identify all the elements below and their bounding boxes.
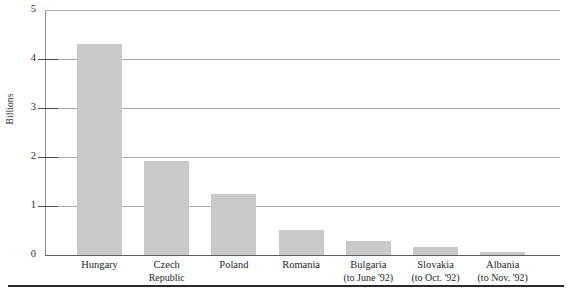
bar-poland [211, 194, 256, 255]
y-tick-label-2: 2 [18, 151, 36, 162]
category-label-line1: Czech [154, 259, 180, 270]
category-label-line1: Hungary [81, 259, 118, 270]
y-tick-label-0: 0 [18, 249, 36, 260]
category-label-line1: Poland [219, 259, 248, 270]
bar-chart-figure: Billions 012345 HungaryCzechRepublicPola… [0, 0, 571, 294]
bar-romania [279, 230, 324, 255]
plot-area: 012345 [45, 10, 560, 256]
y-tick-label-4: 4 [18, 53, 36, 64]
y-axis-title: Billions [5, 77, 15, 141]
category-label-line1: Slovakia [417, 259, 454, 270]
bar-bulgaria [346, 241, 391, 255]
category-label-line1: Bulgaria [350, 259, 386, 270]
y-tick-label-5: 5 [18, 4, 36, 15]
y-tick-label-1: 1 [18, 200, 36, 211]
bar-czech-republic [144, 161, 189, 255]
gridline-1 [45, 206, 560, 207]
y-tick-mark-3 [38, 108, 58, 109]
y-tick-mark-2 [38, 157, 58, 158]
bar-slovakia [413, 247, 458, 255]
category-label-albania: Albania(to Nov. '92) [453, 259, 553, 284]
y-tick-label-3: 3 [18, 102, 36, 113]
y-axis-line [45, 10, 46, 256]
category-label-line1: Albania [486, 259, 519, 270]
bar-albania [480, 252, 525, 255]
category-label-line1: Romania [282, 259, 320, 270]
y-tick-mark-1 [38, 206, 58, 207]
gridline-3 [45, 108, 560, 109]
category-label-line2: Republic [117, 272, 217, 285]
gridline-5 [45, 10, 560, 11]
gridline-2 [45, 157, 560, 158]
gridline-4 [45, 59, 560, 60]
x-axis-line [45, 255, 560, 256]
bar-hungary [77, 44, 122, 255]
bottom-rule [8, 285, 564, 287]
category-label-line2: (to Nov. '92) [453, 272, 553, 285]
y-tick-mark-4 [38, 59, 58, 60]
